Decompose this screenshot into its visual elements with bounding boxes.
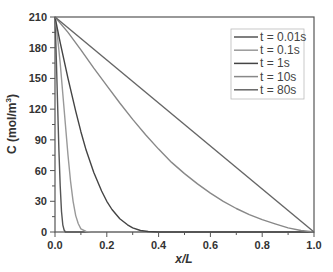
- y-tick-label: 90: [35, 134, 47, 146]
- chart: 0.00.20.40.60.81.0 0306090120150180210 x…: [0, 0, 333, 272]
- y-tick-label: 0: [41, 226, 47, 238]
- x-tick-label: 0.4: [151, 239, 167, 251]
- legend-label: t = 1s: [260, 56, 290, 70]
- y-tick-label: 150: [29, 72, 47, 84]
- y-tick-label: 180: [29, 42, 47, 54]
- x-tick-label: 0.2: [99, 239, 114, 251]
- y-axis-title: C (mol/m3): [4, 94, 19, 154]
- x-tick-label: 0.8: [255, 239, 270, 251]
- y-axis-title-end: ): [5, 94, 19, 98]
- x-tick-label: 1.0: [306, 239, 321, 251]
- x-tick-label: 0.0: [47, 239, 62, 251]
- legend-label: t = 80s: [260, 83, 296, 97]
- x-axis: 0.00.20.40.60.81.0: [47, 232, 321, 251]
- y-tick-label: 30: [35, 195, 47, 207]
- x-axis-title: x/L: [174, 252, 192, 266]
- y-tick-label: 210: [29, 11, 47, 23]
- y-tick-label: 60: [35, 165, 47, 177]
- y-axis: 0306090120150180210: [29, 11, 55, 238]
- legend: t = 0.01st = 0.1st = 1st = 10st = 80s: [231, 29, 306, 99]
- legend-label: t = 10s: [260, 70, 296, 84]
- legend-label: t = 0.1s: [260, 43, 300, 57]
- y-tick-label: 120: [29, 103, 47, 115]
- y-axis-title-main: C (mol/m: [5, 103, 19, 154]
- x-tick-label: 0.6: [203, 239, 218, 251]
- legend-label: t = 0.01s: [260, 30, 306, 44]
